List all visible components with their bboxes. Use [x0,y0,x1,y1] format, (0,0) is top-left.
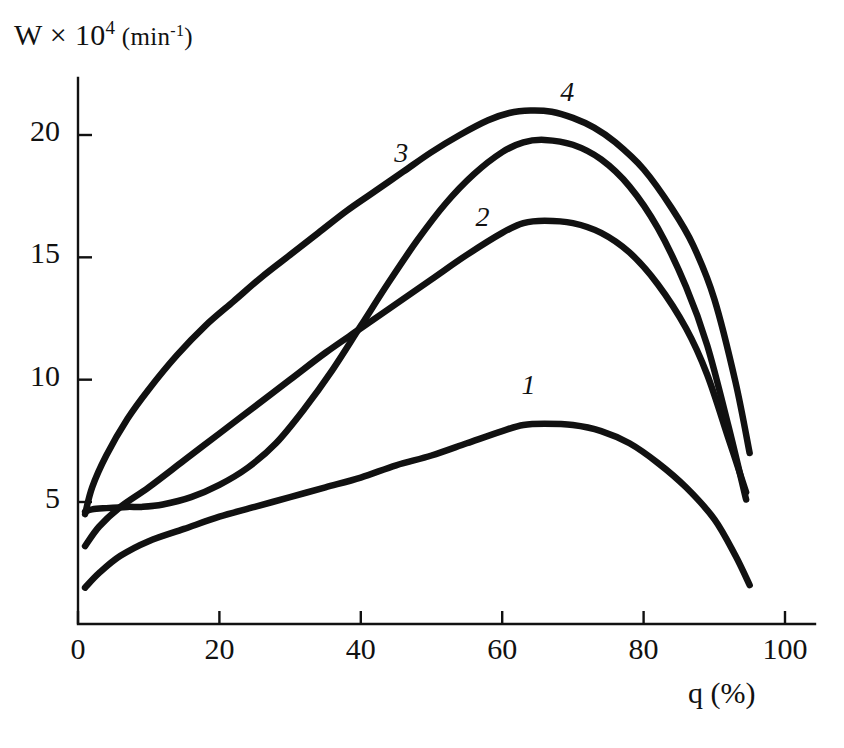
y-tick-label-15: 15 [0,236,60,270]
plot-area [0,0,844,748]
curve-label-1: 1 [521,369,535,401]
y-tick-label-20: 20 [0,114,60,148]
curve-1 [85,424,750,588]
axis-group [78,78,815,624]
curves-group [85,110,750,587]
figure-container: W × 104 (min-1) q (%) 020406080100510152… [0,0,844,748]
x-tick-label-80: 80 [604,632,684,666]
curve-label-2: 2 [476,201,490,233]
y-tick-label-10: 10 [0,359,60,393]
y-tick-label-5: 5 [0,481,60,515]
x-tick-label-0: 0 [38,632,118,666]
x-tick-label-60: 60 [462,632,542,666]
x-tick-label-100: 100 [745,632,825,666]
curve-label-4: 4 [560,76,574,108]
ticks-group [78,135,785,624]
x-tick-label-40: 40 [321,632,401,666]
curve-label-3: 3 [394,137,408,169]
x-tick-label-20: 20 [179,632,259,666]
axis-lines [78,78,815,624]
